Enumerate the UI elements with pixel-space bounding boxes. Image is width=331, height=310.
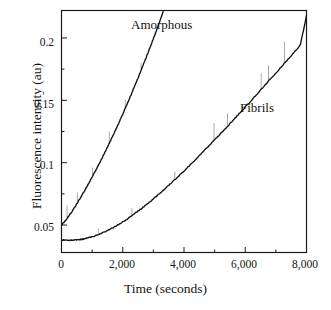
y-axis-title: Fluorescence intensity (au) [29, 36, 45, 236]
x-tick-label: 2,000 [102, 259, 142, 271]
x-tick-label: 8,000 [285, 259, 325, 271]
x-tick-label: 0 [41, 259, 81, 271]
figure-container: 0.2 0.15 0.1 0.05 0 2,000 4,000 6,000 8,… [0, 0, 331, 310]
x-tick-label: 4,000 [163, 259, 203, 271]
series-label-fibrils: Fibrils [240, 100, 274, 116]
x-axis-title: Time (seconds) [0, 281, 331, 297]
x-tick-label: 6,000 [224, 259, 264, 271]
series-label-amorphous: Amorphous [131, 17, 192, 33]
